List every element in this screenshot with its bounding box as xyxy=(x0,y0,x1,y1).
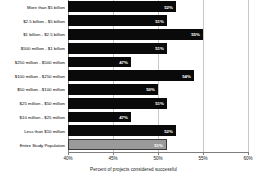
bar[interactable]: 47% xyxy=(68,57,131,68)
bar-highlight[interactable]: 51% xyxy=(68,139,167,150)
bar-row: $500 million - $1 billion 51% xyxy=(0,41,267,55)
bar-value-label: 47% xyxy=(119,115,128,120)
bar[interactable]: 47% xyxy=(68,112,131,123)
bar-chart: More than $5 billion 52% $2.5 billion - … xyxy=(0,0,267,177)
category-label: Less than $10 million xyxy=(0,128,65,133)
bar-row: $250 million - $500 million 47% xyxy=(0,55,267,69)
x-axis-tick-label: 40% xyxy=(63,156,72,161)
bar-row: More than $5 billion 52% xyxy=(0,0,267,14)
bar-track: 52% xyxy=(68,1,176,12)
bar-row: Entire Study Population 51% xyxy=(0,138,267,152)
bar[interactable]: 51% xyxy=(68,43,167,54)
bar[interactable]: 51% xyxy=(68,15,167,26)
category-label: $250 million - $500 million xyxy=(0,59,65,64)
bar-value-label: 47% xyxy=(119,59,128,64)
bar-value-label: 55% xyxy=(191,32,200,37)
bar-track: 51% xyxy=(68,98,167,109)
category-label: $25 million - $50 million xyxy=(0,101,65,106)
x-axis-tick xyxy=(248,152,249,155)
bar-track: 47% xyxy=(68,112,131,123)
bar-value-label: 51% xyxy=(155,18,164,23)
category-label: $1 billion - $2.5 billion xyxy=(0,32,65,37)
bar-row: $50 million - $100 million 50% xyxy=(0,83,267,97)
x-axis-tick-label: 60% xyxy=(243,156,252,161)
x-axis-tick xyxy=(113,152,114,155)
bar-row: $25 million - $50 million 51% xyxy=(0,96,267,110)
bar[interactable]: 52% xyxy=(68,1,176,12)
bar-track: 54% xyxy=(68,70,194,81)
bar-row: $1 billion - $2.5 billion 55% xyxy=(0,28,267,42)
bar-track: 51% xyxy=(68,139,167,150)
bar-track: 51% xyxy=(68,15,167,26)
bar[interactable]: 50% xyxy=(68,84,158,95)
bar-value-label: 54% xyxy=(182,73,191,78)
category-label: $2.5 billion - $5 billion xyxy=(0,18,65,23)
bar-track: 47% xyxy=(68,57,131,68)
x-axis-title: Percent of projects considered successfu… xyxy=(0,167,267,172)
category-label: $500 million - $1 billion xyxy=(0,46,65,51)
bar[interactable]: 52% xyxy=(68,125,176,136)
bar-row: $2.5 billion - $5 billion 51% xyxy=(0,14,267,28)
bar-value-label: 51% xyxy=(155,101,164,106)
bar-track: 55% xyxy=(68,29,203,40)
category-label: $10 million - $25 million xyxy=(0,115,65,120)
plot-area: More than $5 billion 52% $2.5 billion - … xyxy=(0,0,267,152)
bar[interactable]: 51% xyxy=(68,98,167,109)
category-label: $100 million - $250 million xyxy=(0,73,65,78)
bar-track: 51% xyxy=(68,43,167,54)
bar-row: Less than $10 million 52% xyxy=(0,124,267,138)
bar-rows: More than $5 billion 52% $2.5 billion - … xyxy=(0,0,267,152)
x-axis-tick xyxy=(203,152,204,155)
x-axis-tick xyxy=(68,152,69,155)
category-label: $50 million - $100 million xyxy=(0,87,65,92)
bar-row: $100 million - $250 million 54% xyxy=(0,69,267,83)
bar-track: 52% xyxy=(68,125,176,136)
bar-track: 50% xyxy=(68,84,158,95)
bar-row: $10 million - $25 million 47% xyxy=(0,110,267,124)
x-axis-tick xyxy=(158,152,159,155)
x-axis-tick-label: 45% xyxy=(108,156,117,161)
bar-value-label: 52% xyxy=(164,128,173,133)
bar[interactable]: 55% xyxy=(68,29,203,40)
bar-value-label: 51% xyxy=(154,142,163,147)
category-label: Entire Study Population xyxy=(0,142,65,147)
x-axis-tick-label: 55% xyxy=(198,156,207,161)
bar-value-label: 51% xyxy=(155,46,164,51)
bar-value-label: 50% xyxy=(146,87,155,92)
x-axis-tick-label: 50% xyxy=(153,156,162,161)
bar-value-label: 52% xyxy=(164,4,173,9)
category-label: More than $5 billion xyxy=(0,4,65,9)
bar[interactable]: 54% xyxy=(68,70,194,81)
